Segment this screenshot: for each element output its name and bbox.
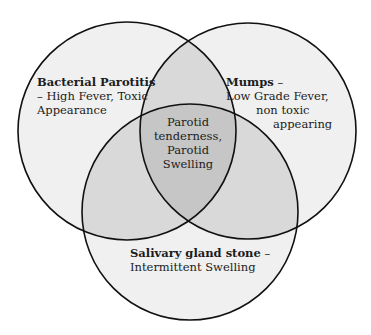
label-right-title-suffix: – <box>274 75 283 89</box>
label-left-line2: Appearance <box>37 103 155 117</box>
label-bottom-title: Salivary gland stone <box>130 246 261 260</box>
label-center-line4: Swelling <box>153 157 223 171</box>
label-mumps: Mumps – Low Grade Fever, non toxic appea… <box>226 75 332 131</box>
label-center-intersection: Parotid tenderness, Parotid Swelling <box>153 115 223 171</box>
label-right-line1: Low Grade Fever, <box>226 89 332 103</box>
label-right-title: Mumps <box>226 75 274 89</box>
label-right-line3: appearing <box>226 117 332 131</box>
label-center-line3: Parotid <box>153 143 223 157</box>
label-bottom-line1: Intermittent Swelling <box>130 260 270 274</box>
label-bacterial-parotitis: Bacterial Parotitis – High Fever, Toxic … <box>37 75 155 117</box>
label-right-line2: non toxic <box>226 103 332 117</box>
label-left-line1: – High Fever, Toxic <box>37 89 155 103</box>
label-salivary-gland-stone: Salivary gland stone – Intermittent Swel… <box>130 246 270 274</box>
label-bottom-title-suffix: – <box>261 246 270 260</box>
label-center-line1: Parotid <box>153 115 223 129</box>
label-left-title: Bacterial Parotitis <box>37 75 155 89</box>
label-center-line2: tenderness, <box>153 129 223 143</box>
